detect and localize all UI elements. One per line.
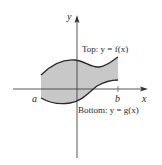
b-label: b bbox=[115, 93, 120, 104]
a-label: a bbox=[32, 93, 37, 104]
x-axis-label: x bbox=[141, 93, 147, 104]
diagram-canvas: y Top: y = f(x) a b x Bottom: y = g(x) bbox=[0, 0, 162, 165]
bottom-curve-label: Bottom: y = g(x) bbox=[78, 105, 139, 115]
top-curve-label: Top: y = f(x) bbox=[82, 44, 128, 54]
y-axis-label: y bbox=[66, 11, 72, 22]
region-diagram: y Top: y = f(x) a b x Bottom: y = g(x) bbox=[0, 0, 162, 165]
